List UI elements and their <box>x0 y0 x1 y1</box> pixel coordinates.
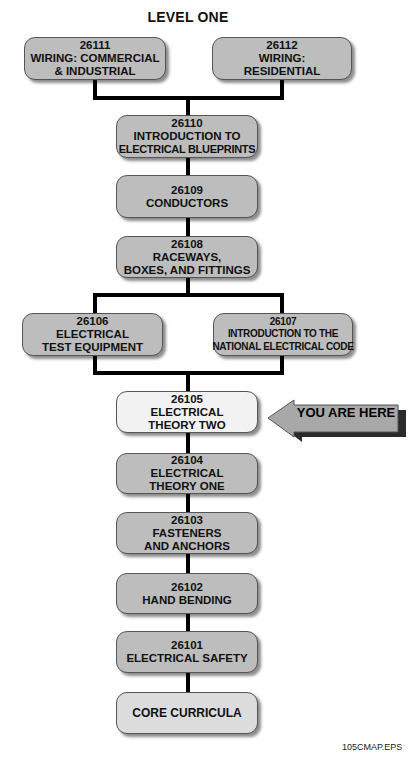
module-title-line2: ELECTRICAL BLUEPRINTS <box>119 143 256 156</box>
module-title-line1: INTRODUCTION TO THE <box>228 328 338 341</box>
module-26106: 26106 ELECTRICAL TEST EQUIPMENT <box>22 313 163 356</box>
module-code: 26109 <box>171 184 203 197</box>
module-title-line1: HAND BENDING <box>142 594 231 607</box>
module-title-line1: CORE CURRICULA <box>132 707 241 720</box>
module-26103: 26103 FASTENERS AND ANCHORS <box>116 512 258 554</box>
module-26112: 26112 WIRING: RESIDENTIAL <box>212 37 352 80</box>
module-26109: 26109 CONDUCTORS <box>116 175 258 218</box>
module-code: 26111 <box>80 39 111 52</box>
module-title-line2: BOXES, AND FITTINGS <box>124 264 251 277</box>
module-title-line2: THEORY ONE <box>149 480 224 493</box>
module-title-line2: RESIDENTIAL <box>244 65 321 78</box>
figure-caption: 105CMAP.EPS <box>342 742 402 752</box>
module-26108: 26108 RACEWAYS, BOXES, AND FITTINGS <box>116 236 258 278</box>
connector-mid-horizontal-top <box>93 293 284 297</box>
module-code: 26103 <box>171 514 203 527</box>
diagram-title: LEVEL ONE <box>0 9 376 25</box>
module-26104: 26104 ELECTRICAL THEORY ONE <box>116 453 258 494</box>
module-core-curricula: CORE CURRICULA <box>116 692 258 734</box>
module-26111: 26111 WIRING: COMMERCIAL & INDUSTRIAL <box>24 37 166 80</box>
module-code: 26105 <box>171 393 203 406</box>
module-code: 26104 <box>171 454 203 467</box>
module-26107: 26107 INTRODUCTION TO THE NATIONAL ELECT… <box>213 313 353 356</box>
module-code: 26101 <box>171 639 203 652</box>
module-title-line1: ELECTRICAL <box>56 328 129 341</box>
module-title-line2: THEORY TWO <box>148 419 225 432</box>
module-code: 26108 <box>171 238 203 251</box>
module-title-line1: INTRODUCTION TO <box>133 130 240 143</box>
module-title-line2: & INDUSTRIAL <box>54 65 135 78</box>
module-title-line1: ELECTRICAL <box>151 467 224 480</box>
module-26101: 26101 ELECTRICAL SAFETY <box>116 631 258 673</box>
module-title-line1: WIRING: COMMERCIAL <box>30 52 159 65</box>
module-code: 26110 <box>171 117 202 130</box>
module-title-line1: ELECTRICAL <box>151 406 224 419</box>
module-title-line1: WIRING: <box>259 52 306 65</box>
you-are-here-label: YOU ARE HERE <box>296 405 396 420</box>
module-title-line2: TEST EQUIPMENT <box>42 341 143 354</box>
module-title-line1: RACEWAYS, <box>153 251 222 264</box>
module-26105-current: 26105 ELECTRICAL THEORY TWO <box>116 391 258 433</box>
module-title-line1: CONDUCTORS <box>146 197 228 210</box>
module-code: 26107 <box>270 316 296 329</box>
module-26102: 26102 HAND BENDING <box>116 573 258 614</box>
module-title-line1: ELECTRICAL SAFETY <box>126 652 247 665</box>
module-code: 26112 <box>266 39 297 52</box>
module-code: 26106 <box>77 315 109 328</box>
module-code: 26102 <box>171 581 203 594</box>
module-title-line2: AND ANCHORS <box>144 540 230 553</box>
module-title-line2: NATIONAL ELECTRICAL CODE <box>212 341 353 354</box>
module-26110: 26110 INTRODUCTION TO ELECTRICAL BLUEPRI… <box>116 115 258 158</box>
module-title-line1: FASTENERS <box>152 527 221 540</box>
